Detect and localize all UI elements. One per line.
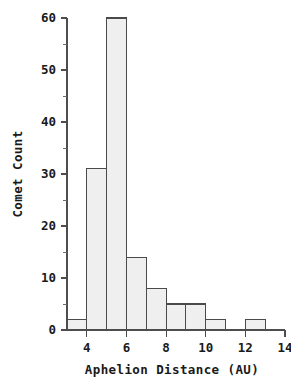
bar-8to9	[166, 304, 186, 330]
x-tick-label-8: 8	[162, 340, 170, 355]
y-tick-label-40: 40	[41, 114, 56, 129]
bar-3to4	[67, 320, 87, 330]
bars-group	[67, 18, 265, 330]
x-tick-label-10: 10	[198, 340, 213, 355]
histogram-chart: 0102030405060 468101214 Aphelion Distanc…	[0, 0, 291, 389]
x-axis-tick-labels: 468101214	[83, 340, 291, 355]
bar-9to10	[186, 304, 206, 330]
x-tick-label-4: 4	[83, 340, 91, 355]
y-tick-label-50: 50	[41, 62, 56, 77]
bar-4to5	[87, 169, 107, 330]
y-axis-title: Comet Count	[10, 130, 25, 217]
bar-5to6	[107, 18, 127, 330]
bar-12to13	[245, 320, 265, 330]
x-tick-label-6: 6	[123, 340, 131, 355]
y-tick-label-0: 0	[48, 322, 56, 337]
x-tick-label-12: 12	[238, 340, 253, 355]
chart-canvas: 0102030405060 468101214 Aphelion Distanc…	[0, 0, 291, 389]
bar-10to11	[206, 320, 226, 330]
x-tick-label-14: 14	[277, 340, 291, 355]
bar-6to7	[126, 257, 146, 330]
y-tick-label-60: 60	[41, 10, 56, 25]
x-axis-title: Aphelion Distance (AU)	[85, 362, 259, 377]
y-axis-tick-labels: 0102030405060	[41, 10, 56, 337]
y-tick-label-30: 30	[41, 166, 56, 181]
y-axis-ticks	[61, 18, 68, 330]
x-axis-ticks	[87, 330, 285, 337]
y-tick-label-20: 20	[41, 218, 56, 233]
y-tick-label-10: 10	[41, 270, 56, 285]
bar-7to8	[146, 288, 166, 330]
